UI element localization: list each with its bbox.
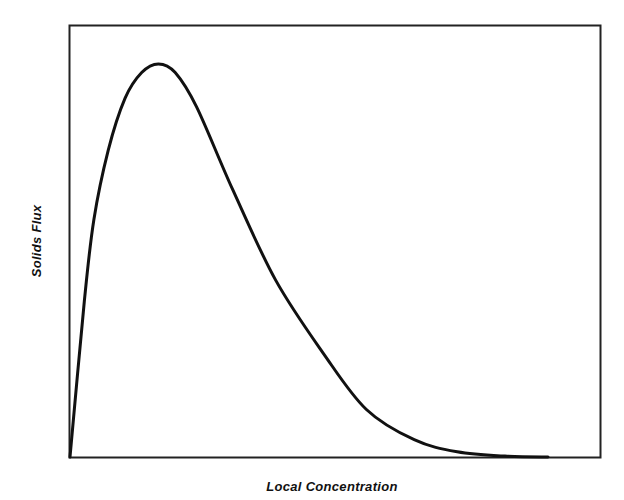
plot-frame: [70, 26, 601, 458]
chart-plot: [0, 0, 624, 500]
x-axis-label: Local Concentration: [0, 479, 624, 494]
solids-flux-curve: [70, 64, 548, 457]
y-axis-label: Solids Flux: [29, 205, 44, 278]
